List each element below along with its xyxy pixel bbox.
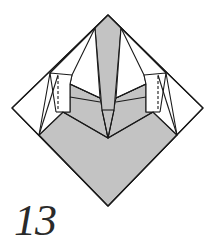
step-number: 13	[14, 196, 56, 246]
